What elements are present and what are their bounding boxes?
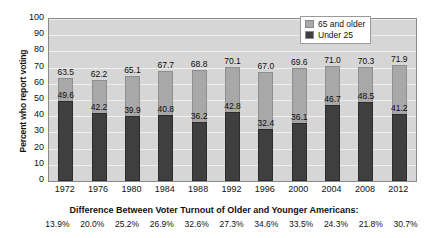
x-axis-tick-labels: 1972197619801984198819921996200020042008… xyxy=(48,184,417,198)
data-label-younger-1980: 39.9 xyxy=(115,106,149,115)
data-label-older-1992: 70.1 xyxy=(216,57,250,66)
data-label-older-2008: 70.3 xyxy=(349,57,383,66)
y-tick-60: 60 xyxy=(18,78,44,87)
x-tick-2012: 2012 xyxy=(378,184,418,195)
data-label-younger-1972: 49.6 xyxy=(49,91,83,100)
bar-group-1992 xyxy=(225,19,240,181)
y-tick-70: 70 xyxy=(18,62,44,71)
data-label-younger-1988: 36.2 xyxy=(182,112,216,121)
data-label-older-2000: 69.6 xyxy=(282,58,316,67)
data-label-younger-2004: 46.7 xyxy=(316,95,350,104)
legend-swatch-younger-icon xyxy=(305,31,314,39)
data-label-younger-2000: 36.1 xyxy=(282,113,316,122)
voter-turnout-chart: Percent who report voting 01020304050607… xyxy=(0,0,428,238)
chart-caption: Difference Between Voter Turnout of Olde… xyxy=(0,205,428,216)
bar-younger-1976 xyxy=(92,113,107,181)
y-tick-10: 10 xyxy=(18,159,44,168)
y-tick-90: 90 xyxy=(18,29,44,38)
data-label-older-1984: 67.7 xyxy=(149,61,183,70)
bar-younger-2008 xyxy=(358,102,373,181)
bar-group-1988 xyxy=(192,19,207,181)
bar-younger-2000 xyxy=(292,123,307,181)
data-label-older-2004: 71.0 xyxy=(316,56,350,65)
bar-younger-1996 xyxy=(258,129,273,181)
y-tick-100: 100 xyxy=(18,13,44,22)
bar-group-1984 xyxy=(158,19,173,181)
data-label-older-1976: 62.2 xyxy=(82,70,116,79)
data-label-older-2012: 71.9 xyxy=(382,55,416,64)
data-label-younger-1984: 40.8 xyxy=(149,105,183,114)
y-tick-50: 50 xyxy=(18,94,44,103)
y-tick-20: 20 xyxy=(18,143,44,152)
bar-younger-1984 xyxy=(158,115,173,181)
legend-label-older: 65 and older xyxy=(318,19,365,29)
bar-younger-2004 xyxy=(325,105,340,181)
data-label-younger-2012: 41.2 xyxy=(382,104,416,113)
data-label-older-1996: 67.0 xyxy=(249,62,283,71)
data-label-younger-2008: 48.5 xyxy=(349,92,383,101)
chart-legend: 65 and older Under 25 xyxy=(300,16,371,44)
data-label-younger-1992: 42.8 xyxy=(216,102,250,111)
legend-item-younger: Under 25 xyxy=(305,30,365,40)
y-axis-tick-labels: 0102030405060708090100 xyxy=(14,0,44,238)
bar-younger-1980 xyxy=(125,116,140,181)
bar-group-1976 xyxy=(92,19,107,181)
bar-group-1996 xyxy=(258,19,273,181)
legend-item-older: 65 and older xyxy=(305,19,365,29)
y-tick-80: 80 xyxy=(18,45,44,54)
y-tick-30: 30 xyxy=(18,126,44,135)
data-label-younger-1996: 32.4 xyxy=(249,119,283,128)
data-label-older-1980: 65.1 xyxy=(115,66,149,75)
bar-younger-1972 xyxy=(58,101,73,181)
data-label-younger-1976: 42.2 xyxy=(82,103,116,112)
y-tick-40: 40 xyxy=(18,110,44,119)
difference-values-row: 13.9%20.0%25.2%26.9%32.6%27.3%34.6%33.5%… xyxy=(40,219,423,231)
legend-label-younger: Under 25 xyxy=(318,30,353,40)
bar-younger-2012 xyxy=(392,114,407,181)
bar-younger-1992 xyxy=(225,112,240,181)
bar-group-1980 xyxy=(125,19,140,181)
bar-younger-1988 xyxy=(192,122,207,181)
difference-value-2012: 30.7% xyxy=(385,219,427,229)
legend-swatch-older-icon xyxy=(305,20,314,28)
data-label-older-1988: 68.8 xyxy=(182,60,216,69)
bar-group-2012 xyxy=(392,19,407,181)
bar-group-1972 xyxy=(58,19,73,181)
y-tick-0: 0 xyxy=(18,175,44,184)
data-label-older-1972: 63.5 xyxy=(49,68,83,77)
